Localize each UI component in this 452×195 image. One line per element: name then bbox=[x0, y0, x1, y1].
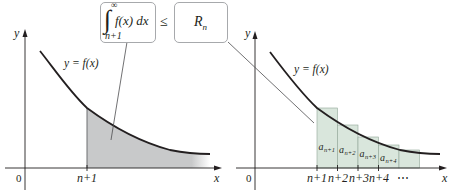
origin-label: 0 bbox=[16, 172, 22, 184]
svg-text:n+3: n+3 bbox=[365, 153, 377, 160]
svg-text:a: a bbox=[360, 148, 365, 159]
rectangle-a-n-plus-1 bbox=[317, 108, 338, 168]
right-panel bbox=[228, 31, 447, 190]
integral-upper-limit: ∞ bbox=[111, 0, 117, 10]
tick-label-n-plus-4: n+4 bbox=[369, 171, 389, 185]
tick-label-n-plus-2: n+2 bbox=[328, 171, 348, 185]
integral-callout-box: ∫ ∞ n+1 f(x) dx bbox=[100, 2, 156, 43]
curve-label: y = f(x) bbox=[293, 63, 329, 76]
left-panel bbox=[5, 29, 222, 190]
x-axis-arrow-icon bbox=[214, 166, 222, 171]
less-or-equal-sign: ≤ bbox=[160, 14, 168, 30]
tick-label-ellipsis: ⋯ bbox=[397, 171, 409, 185]
tick-label-n-plus-1: n+1 bbox=[77, 171, 97, 185]
svg-text:n+4: n+4 bbox=[386, 157, 398, 164]
curve-label: y = f(x) bbox=[63, 57, 99, 70]
tick-label-n-plus-1: n+1 bbox=[307, 171, 327, 185]
remainder-callout-box: Rn bbox=[174, 2, 228, 43]
svg-text:a: a bbox=[339, 144, 344, 155]
integral-lower-limit: n+1 bbox=[105, 30, 122, 41]
integrand: f(x) dx bbox=[115, 13, 149, 29]
y-axis-arrow-icon bbox=[253, 31, 258, 39]
x-axis-label: x bbox=[213, 171, 220, 185]
remainder-r: R bbox=[194, 14, 203, 29]
integral-leader-line bbox=[111, 42, 127, 140]
integral-shaded-region bbox=[87, 108, 210, 168]
remainder-subscript-n: n bbox=[203, 22, 208, 32]
y-axis-label: y bbox=[244, 26, 251, 40]
svg-text:a: a bbox=[319, 141, 324, 152]
y-axis-arrow-icon bbox=[23, 29, 28, 37]
svg-text:a: a bbox=[380, 152, 385, 163]
origin-label: 0 bbox=[246, 172, 252, 184]
remainder-rn: Rn bbox=[194, 14, 207, 32]
x-axis-label: x bbox=[441, 171, 448, 185]
svg-text:n+1: n+1 bbox=[324, 146, 335, 153]
x-axis-arrow-icon bbox=[439, 166, 447, 171]
y-axis-label: y bbox=[13, 26, 20, 40]
tick-label-n-plus-3: n+3 bbox=[349, 171, 369, 185]
svg-text:n+2: n+2 bbox=[345, 149, 357, 156]
